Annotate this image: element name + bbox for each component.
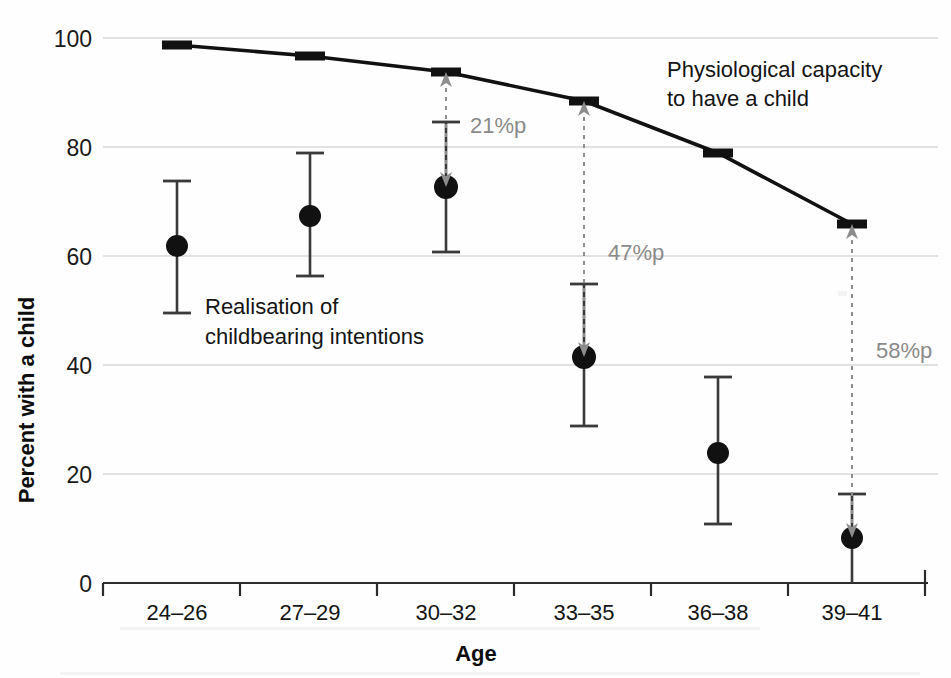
x-cat-label-1: 27–29 bbox=[279, 600, 340, 625]
x-axis bbox=[103, 570, 928, 596]
x-axis-category-labels: 24–26 27–29 30–32 33–35 36–38 39–41 bbox=[146, 600, 882, 625]
x-cat-label-5: 39–41 bbox=[821, 600, 882, 625]
x-cat-label-2: 30–32 bbox=[415, 600, 476, 625]
gap-label-21: 21%p bbox=[470, 113, 526, 138]
x-cat-label-4: 36–38 bbox=[687, 600, 748, 625]
gridlines bbox=[103, 38, 938, 474]
scan-artifact bbox=[120, 627, 760, 630]
series-label-realisation-line2: childbearing intentions bbox=[205, 324, 424, 349]
series-label-physiological-line2: to have a child bbox=[667, 86, 809, 111]
y-axis-title: Percent with a child bbox=[14, 297, 39, 504]
x-cat-label-0: 24–26 bbox=[146, 600, 207, 625]
data-point-4 bbox=[707, 442, 729, 464]
y-axis-tick-labels: 100 80 60 40 20 0 bbox=[54, 26, 92, 597]
x-cat-label-3: 33–35 bbox=[553, 600, 614, 625]
scan-artifact bbox=[60, 672, 920, 675]
realisation-series bbox=[163, 122, 866, 583]
data-point-1 bbox=[299, 205, 321, 227]
series-label-physiological-line1: Physiological capacity bbox=[667, 57, 882, 82]
series-labels: Physiological capacity to have a child R… bbox=[205, 57, 882, 349]
y-tick-label-60: 60 bbox=[66, 244, 92, 270]
y-tick-label-80: 80 bbox=[66, 135, 92, 161]
gap-arrow-47 bbox=[578, 101, 590, 357]
gap-arrow-58 bbox=[846, 224, 858, 538]
data-point-0 bbox=[166, 235, 188, 257]
y-tick-label-20: 20 bbox=[66, 462, 92, 488]
x-axis-title: Age bbox=[455, 641, 497, 666]
scatter-chart-with-error-bars: 100 80 60 40 20 0 Percent with a child 2… bbox=[0, 0, 951, 678]
y-tick-label-0: 0 bbox=[79, 571, 92, 597]
gap-label-47: 47%p bbox=[608, 240, 664, 265]
gap-label-58: 58%p bbox=[876, 338, 932, 363]
chart-figure: 100 80 60 40 20 0 Percent with a child 2… bbox=[0, 0, 951, 678]
y-tick-label-100: 100 bbox=[54, 26, 92, 52]
y-tick-label-40: 40 bbox=[66, 353, 92, 379]
scan-artifact bbox=[838, 291, 847, 296]
series-label-realisation-line1: Realisation of bbox=[205, 294, 339, 319]
